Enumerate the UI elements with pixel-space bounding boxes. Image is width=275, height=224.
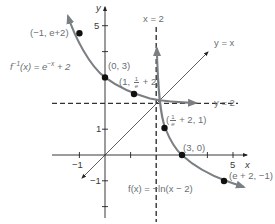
point-label-neg1-e-plus-2: (−1, e+2) bbox=[30, 28, 69, 38]
point-label-3-0: (3, 0) bbox=[183, 143, 205, 153]
tick-label-x-neg1: −1 bbox=[72, 160, 83, 170]
x-axis-label: x bbox=[245, 160, 250, 170]
point-label-inv-e-plus-2-1: (1e + 2, 1) bbox=[166, 114, 206, 127]
point-label-1-inv-e-plus-2: (1, 1e + 2) bbox=[119, 76, 159, 89]
point-1-inv-e-plus-2 bbox=[131, 91, 137, 97]
line-y-equals-x-label: y = x bbox=[214, 38, 234, 48]
tick-label-y-1: 1 bbox=[96, 124, 101, 134]
y-axis-label: y bbox=[96, 3, 101, 13]
asymptote-x-label: x = 2 bbox=[143, 14, 164, 24]
point-neg1-e-plus-2 bbox=[76, 30, 82, 36]
point-label-0-3: (0, 3) bbox=[108, 61, 130, 71]
asymptote-y-label: y = 2 bbox=[214, 98, 235, 108]
point-label-e-plus-2-neg1: (e + 2, −1) bbox=[229, 171, 273, 181]
inverse-function-label: f−1(x) = e−x + 2 bbox=[10, 61, 70, 72]
function-label: f(x) = −ln(x − 2) bbox=[128, 184, 193, 194]
point-e-plus-2-neg1 bbox=[221, 178, 227, 184]
tick-label-y-5: 5 bbox=[94, 21, 99, 31]
tick-label-y-neg1: −1 bbox=[90, 176, 101, 186]
tick-label-x-5: 5 bbox=[230, 160, 235, 170]
curve-inverse-function bbox=[68, 16, 196, 103]
point-0-3 bbox=[102, 74, 108, 80]
